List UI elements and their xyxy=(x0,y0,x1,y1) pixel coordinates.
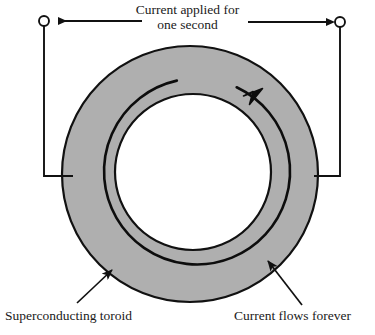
cut-off-caption xyxy=(0,327,375,335)
label-current-flows-forever: Current flows forever xyxy=(234,308,351,323)
supply-wire-right xyxy=(314,27,340,176)
label-current-applied-line1: Current applied for xyxy=(0,2,375,17)
toroid-diagram xyxy=(0,0,375,335)
leader-superconducting-toroid xyxy=(77,270,112,303)
label-current-applied-line2: one second xyxy=(0,17,375,32)
leader-current-flows-forever xyxy=(268,261,302,305)
toroid-inner-hole xyxy=(115,94,271,250)
label-superconducting-toroid: Superconducting toroid xyxy=(5,308,132,323)
label-current-applied: Current applied for one second xyxy=(0,2,375,32)
figure-root: Current applied for one second Supercond… xyxy=(0,0,375,335)
